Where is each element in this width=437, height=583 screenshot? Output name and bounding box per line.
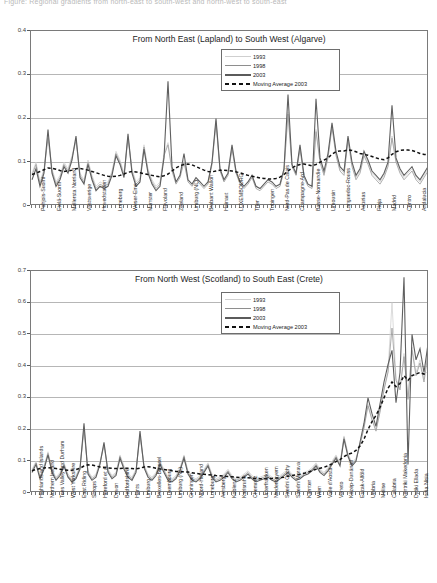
x-axis-tick-label: Weser-Ems [133,183,139,211]
x-axis-tick-label: Groningen [189,473,195,498]
chart-top-title: From North East (Lapland) to South West … [30,34,428,44]
y-axis-tick-mark [27,30,30,31]
legend-swatch-moving-average [225,80,251,88]
x-axis-tick-label: Koblenz [232,479,238,498]
x-axis-tick-label: Dytiki Ellada [414,469,420,498]
y-axis-tick-label: 0.7 [2,267,26,273]
x-axis-tick-mark [227,492,228,495]
x-axis-tick-label: Veneto [339,482,345,499]
x-axis-tick-label: Stredni Cechy [285,465,291,498]
x-axis-tick-label: Tubingen [270,189,276,211]
legend-item-1993: 1993 [225,295,336,304]
x-axis-tick-mark [247,205,248,208]
chart-bottom-legend: 1993 1998 2003 Moving Average 2003 [221,292,340,334]
x-axis-tick-mark [323,205,324,208]
legend-item-1998: 1998 [225,61,336,70]
legend-swatch-1993 [225,296,251,304]
x-axis-tick-mark [35,492,36,495]
x-axis-tick-mark [279,205,280,208]
x-axis-tick-mark [323,492,324,495]
x-axis-tick-mark [355,492,356,495]
x-axis-tick-mark [291,492,292,495]
x-axis-tick-label: Centro [407,195,413,211]
x-axis-tick-mark [371,205,372,208]
x-axis-tick-mark [111,492,112,495]
x-axis-tick-label: Rioja [377,199,383,211]
x-axis-tick-mark [335,492,336,495]
x-axis-tick-mark [51,205,52,208]
x-axis-tick-label: Közép-Dunántúl [349,460,355,498]
x-axis-tick-mark [31,205,32,208]
legend-swatch-2003 [225,314,251,322]
x-axis-tick-mark [387,492,388,495]
x-axis-tick-mark [31,492,32,495]
x-axis-tick-label: Karlsruhe [242,475,248,498]
x-axis-tick-row [30,492,428,496]
x-axis-tick-label: Luneburg [118,189,124,211]
x-axis-tick-mark [339,205,340,208]
x-axis-tick-label: Champagne-Ard [300,172,306,211]
y-axis-tick-mark [27,397,30,398]
x-axis-tick-mark [175,205,176,208]
figure-root: Figure: Regional gradients from north-ea… [0,0,437,583]
x-axis-tick-label: Andalucia [422,188,428,211]
legend-item-moving-average: Moving Average 2003 [225,79,336,88]
x-axis-tick-mark [343,205,344,208]
x-axis-tick-mark [47,205,48,208]
series-line-1998 [32,328,428,480]
chart-top-plot-area: From North East (Lapland) to South West … [30,30,428,205]
x-axis-tick-label: Languedoc-Rouss [346,168,352,211]
y-axis-tick-label: 0.4 [2,362,26,368]
legend-swatch-1998 [225,62,251,70]
x-axis-tick-mark [67,492,68,495]
x-axis-tick-label: Vastsverige [87,184,93,211]
x-axis-tick-label: Etelä-Suomi [57,182,63,211]
x-axis-tick-mark [311,205,312,208]
x-axis-tick-label: Highlands and Islands [39,446,45,498]
x-axis-tick-mark [367,205,368,208]
x-axis-tick-mark [171,205,172,208]
legend-item-1993: 1993 [225,52,336,61]
x-axis-tick-mark [111,205,112,208]
x-axis-tick-mark [143,492,144,495]
x-axis-tick-label: East Riding [82,471,88,498]
x-axis-tick-mark [219,205,220,208]
x-axis-tick-mark [95,205,96,208]
x-axis-tick-mark [207,492,208,495]
chart-top-legend: 1993 1998 2003 Moving Average 2003 [221,49,340,91]
legend-swatch-moving-average [225,323,251,331]
y-axis-tick-mark [27,429,30,430]
x-axis-tick-label: Karnten [307,479,313,498]
legend-item-moving-average: Moving Average 2003 [225,322,336,331]
x-axis-tick-mark [263,205,264,208]
x-axis-tick-mark [303,492,304,495]
y-axis-tick-label: 0.4 [2,27,26,33]
legend-label-moving-average: Moving Average 2003 [253,80,307,88]
x-axis-tick-label: Northern Ireland [50,460,56,498]
x-axis-tick-mark [79,492,80,495]
y-axis-tick-label: 0.1 [2,457,26,463]
x-axis-tick-mark [399,492,400,495]
x-axis-tick-mark [215,205,216,208]
x-axis-tick-mark [79,205,80,208]
x-axis-tick-mark [131,492,132,495]
x-axis-tick-label: Limburg [146,479,152,498]
x-axis-tick-mark [295,205,296,208]
x-axis-tick-label: West Yorkshire [71,463,77,498]
legend-item-1998: 1998 [225,304,336,313]
x-axis-tick-mark [187,205,188,208]
x-axis-tick-mark [387,205,388,208]
x-axis-tick-mark [367,492,368,495]
x-axis-tick-mark [203,205,204,208]
chart-top: From North East (Lapland) to South West … [0,22,437,262]
y-axis-tick-mark [27,333,30,334]
x-axis-tick-label: Hereford et al. [103,464,109,498]
y-axis-tick-mark [27,460,30,461]
x-axis-tick-label: LUXEMBOURG [239,173,245,211]
x-axis-tick-label: Umbria [371,481,377,498]
x-axis-tick-mark [67,205,68,208]
x-axis-tick-label: Flevoland [163,188,169,211]
x-axis-tick-mark [327,205,328,208]
legend-item-2003: 2003 [225,70,336,79]
chart-bottom-title: From North West (Scotland) to South East… [30,274,428,284]
